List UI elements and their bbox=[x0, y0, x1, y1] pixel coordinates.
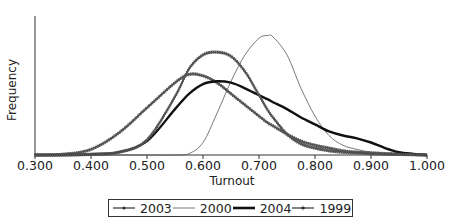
thin-line-icon bbox=[172, 204, 196, 212]
x-tick-label: 0.900 bbox=[353, 158, 389, 173]
y-axis-label: Frequency bbox=[5, 59, 19, 121]
series-line-1999 bbox=[35, 52, 427, 155]
x-tick-label: 0.400 bbox=[73, 158, 109, 173]
marker-line-icon bbox=[112, 204, 136, 212]
legend-item-1999: 1999 bbox=[291, 201, 351, 216]
y-axis-label-wrap: Frequency bbox=[2, 40, 22, 140]
legend: 2003 2000 2004 1999 bbox=[108, 199, 353, 217]
x-tick-label: 0.700 bbox=[241, 158, 277, 173]
legend-item-2004: 2004 bbox=[232, 201, 292, 216]
series-markers-2003 bbox=[34, 72, 427, 156]
thick-line-icon bbox=[232, 204, 256, 212]
legend-label: 2004 bbox=[260, 201, 292, 216]
x-tick-label: 0.500 bbox=[129, 158, 165, 173]
series-layer bbox=[34, 35, 427, 157]
x-tick-label: 1.000 bbox=[409, 158, 445, 173]
legend-item-2003: 2003 bbox=[112, 201, 172, 216]
x-tick-label: 0.800 bbox=[297, 158, 333, 173]
legend-label: 1999 bbox=[319, 201, 351, 216]
legend-item-2000: 2000 bbox=[172, 201, 232, 216]
star-marker-line-icon bbox=[291, 204, 315, 212]
legend-label: 2000 bbox=[200, 201, 232, 216]
chart-plot bbox=[0, 0, 460, 224]
x-tick-label: 0.600 bbox=[185, 158, 221, 173]
x-tick-label: 0.300 bbox=[17, 158, 53, 173]
legend-label: 2003 bbox=[140, 201, 172, 216]
series-line-2003 bbox=[35, 74, 427, 155]
x-axis-label: Turnout bbox=[0, 174, 460, 188]
